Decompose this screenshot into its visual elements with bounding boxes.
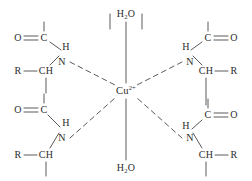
br-amide-nitrogen: N <box>186 133 193 143</box>
tl-carbonyl-carbon: C <box>41 33 48 43</box>
tl-alpha-carbon: CH <box>39 66 53 76</box>
chemical-structure-diagram: H2O H2O Cu2+ O C H N R CH O C H N R CH O… <box>0 0 252 181</box>
br-carbonyl-oxygen: O <box>230 110 237 120</box>
bl-bond-c-n <box>48 115 60 127</box>
tl-amide-nitrogen: N <box>58 57 65 67</box>
tr-carbonyl-carbon: C <box>205 33 212 43</box>
br-carbonyl-carbon: C <box>205 110 212 120</box>
tr-carbonyl-oxygen: O <box>230 33 237 43</box>
tr-side-chain-r: R <box>231 66 238 76</box>
tr-amide-hydrogen: H <box>182 42 189 52</box>
tl-side-chain-r: R <box>15 66 22 76</box>
bl-alpha-carbon: CH <box>39 150 53 160</box>
tr-alpha-carbon: CH <box>199 66 213 76</box>
tr-bond-n-ch <box>193 56 202 65</box>
bl-side-chain-r: R <box>15 150 22 160</box>
metal-center-cu: Cu2+ <box>116 86 136 97</box>
br-alpha-carbon: CH <box>199 150 213 160</box>
br-amide-hydrogen: H <box>182 121 189 131</box>
coordination-bond-bottomleft <box>70 98 115 138</box>
br-bond-c-n <box>192 120 202 129</box>
br-side-chain-r: R <box>231 150 238 160</box>
coordination-bond-topright <box>137 62 182 85</box>
tl-bond-c-n <box>50 42 61 50</box>
br-bond-n-ch <box>193 133 202 148</box>
tl-carbonyl-oxygen: O <box>14 33 21 43</box>
ligand-water-top: H2O <box>117 9 135 19</box>
ligand-water-bottom: H2O <box>117 163 135 173</box>
bl-amide-hydrogen: H <box>62 118 69 128</box>
bl-amide-nitrogen: N <box>58 133 65 143</box>
coordination-bond-topleft <box>70 62 115 85</box>
tr-bond-c-n <box>191 42 202 50</box>
coordination-bond-bottomright <box>137 98 182 138</box>
bl-carbonyl-carbon: C <box>41 105 48 115</box>
tr-amide-nitrogen: N <box>186 57 193 67</box>
tl-amide-hydrogen: H <box>62 42 69 52</box>
bl-carbonyl-oxygen: O <box>14 105 21 115</box>
